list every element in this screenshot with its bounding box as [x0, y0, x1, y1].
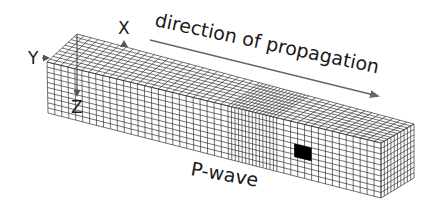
highlighted-cell — [294, 144, 312, 162]
p-wave-diagram: Z Y X direction of propagation P-wave — [0, 0, 446, 209]
x-axis-label: X — [118, 18, 130, 38]
z-axis-label: Z — [71, 97, 83, 117]
x-axis-marker-icon — [120, 40, 128, 47]
y-axis-label: Y — [27, 48, 39, 68]
end-face-grid — [381, 124, 414, 198]
